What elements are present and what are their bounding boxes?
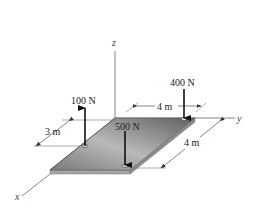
force-label-500n: 500 N — [115, 121, 140, 132]
dimension-label-4m-top: 4 m — [157, 101, 173, 112]
dimension-line-4m-right — [200, 121, 220, 137]
diagram-canvas: z y x 3 m 4 m 4 m 100 N 500 N 400 N — [0, 0, 256, 214]
plate-force-diagram: z y x 3 m 4 m 4 m 100 N 500 N 400 N — [0, 0, 256, 214]
z-axis-label: z — [111, 37, 116, 48]
force-label-400n: 400 N — [170, 77, 195, 88]
x-axis — [22, 174, 50, 196]
force-label-100n: 100 N — [71, 95, 96, 106]
dimension-label-4m-right: 4 m — [184, 137, 200, 148]
plate-front-edge — [50, 170, 130, 174]
y-axis-label: y — [236, 113, 242, 124]
extension-line — [196, 103, 206, 112]
dimension-line-4m-right — [161, 149, 185, 168]
x-axis-label: x — [14, 191, 20, 202]
dimension-label-3m: 3 m — [45, 126, 61, 137]
extension-line — [126, 103, 138, 112]
